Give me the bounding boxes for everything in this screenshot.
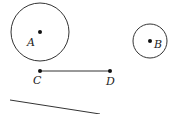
label-a: A — [26, 36, 35, 49]
point-d — [108, 69, 112, 73]
label-c: C — [33, 74, 42, 87]
label-d: D — [105, 75, 115, 88]
point-c — [38, 69, 42, 73]
geometry-diagram: A B C D — [0, 0, 169, 114]
line-segment — [10, 100, 100, 114]
center-point-a — [38, 30, 42, 34]
center-point-b — [148, 39, 152, 43]
label-b: B — [153, 38, 162, 51]
